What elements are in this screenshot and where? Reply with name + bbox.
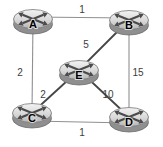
router-node-E: E xyxy=(60,61,99,86)
edge-weight-B-E: 5 xyxy=(83,39,89,50)
edge-weight-B-D: 15 xyxy=(132,67,144,78)
router-label-E: E xyxy=(75,69,82,81)
router-label-D: D xyxy=(125,116,133,128)
router-node-A: A xyxy=(14,10,53,35)
edge-weight-A-B: 1 xyxy=(79,4,85,15)
router-label-A: A xyxy=(29,18,37,30)
diagram-canvas: 125152101ABECD xyxy=(0,0,163,147)
router-label-B: B xyxy=(125,19,133,31)
router-node-B: B xyxy=(110,11,149,36)
router-node-D: D xyxy=(110,108,149,133)
edge-weight-C-E: 2 xyxy=(40,89,46,100)
router-label-C: C xyxy=(28,112,36,124)
edge-weight-E-D: 10 xyxy=(102,89,114,100)
edge-weight-C-D: 1 xyxy=(79,127,85,138)
edge-weight-A-C: 2 xyxy=(17,67,23,78)
router-node-C: C xyxy=(13,104,52,129)
network-topology-diagram: 125152101ABECD xyxy=(0,0,163,147)
